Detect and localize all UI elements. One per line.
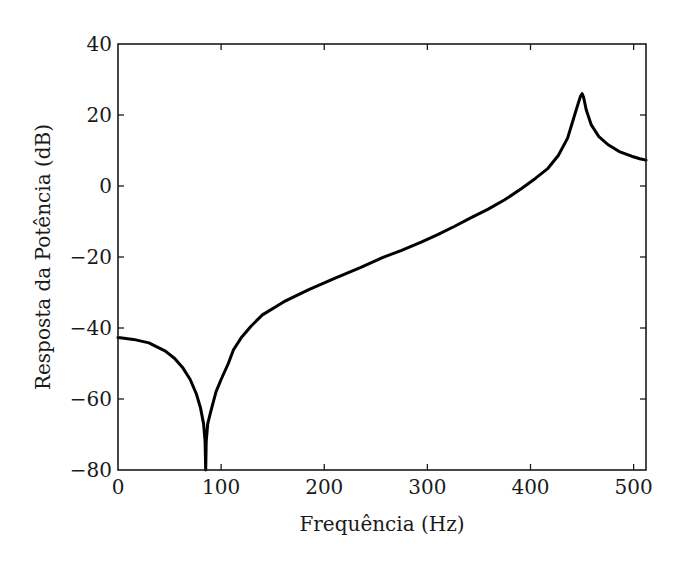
y-tick-label: −20: [70, 245, 112, 269]
y-tick-label: 40: [87, 32, 112, 56]
y-tick-label: 20: [87, 103, 112, 127]
x-tick-label: 500: [615, 475, 653, 499]
x-tick-label: 300: [408, 475, 446, 499]
y-tick-label: −40: [70, 316, 112, 340]
x-tick-label: 100: [202, 475, 240, 499]
y-tick-label: 0: [99, 174, 112, 198]
y-axis-label: Resposta da Potência (dB): [31, 124, 55, 390]
y-tick-label: −60: [70, 387, 112, 411]
x-tick-label: 200: [305, 475, 343, 499]
x-axis-label: Frequência (Hz): [299, 512, 464, 536]
power-response-chart: 010020030040050040200−20−40−60−80 Frequê…: [0, 0, 684, 569]
power-response-line: [118, 94, 646, 470]
tick-labels-layer: 010020030040050040200−20−40−60−80: [70, 32, 653, 499]
x-tick-label: 0: [112, 475, 125, 499]
y-tick-label: −80: [70, 458, 112, 482]
x-tick-label: 400: [511, 475, 549, 499]
